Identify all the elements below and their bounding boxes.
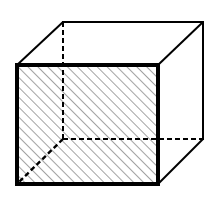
edge-top-right-connector	[158, 22, 203, 65]
front-face-hatch	[17, 65, 158, 184]
cube-diagram	[0, 0, 215, 197]
edge-bottom-right-connector	[158, 139, 203, 184]
edge-top-left-connector	[17, 22, 63, 65]
cube-svg	[0, 0, 215, 197]
